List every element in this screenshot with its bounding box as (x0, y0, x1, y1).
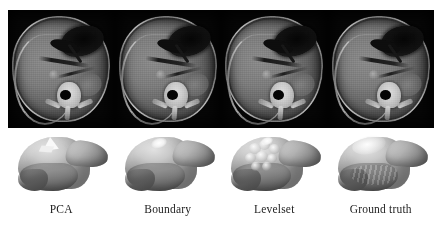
caption-boundary: Boundary (115, 201, 222, 223)
ct-aorta (156, 70, 166, 80)
caption-levelset: Levelset (221, 201, 328, 223)
liver-mesh-levelset (221, 131, 328, 199)
ct-spinous-process (384, 106, 390, 120)
ct-abdomen-cross-section (332, 16, 430, 122)
liver-model (231, 135, 319, 193)
liver-mesh-pca (8, 131, 115, 199)
ct-abdomen-cross-section (225, 16, 323, 122)
liver-model (125, 135, 213, 193)
liver-mesh-ground-truth (328, 131, 435, 199)
ct-aorta (369, 70, 379, 80)
ct-aorta (262, 70, 272, 80)
caption-ground-truth: Ground truth (328, 201, 435, 223)
liver-segmentation-comparison-figure: PCA Boundary Levelset Ground truth (0, 0, 441, 230)
ct-panel-ground-truth (328, 10, 435, 128)
ct-panel-pca (8, 10, 115, 128)
ct-slice-strip (8, 10, 434, 128)
ct-spinal-canal (167, 90, 178, 100)
ct-spinous-process (171, 106, 177, 120)
liver-shadow-region (125, 169, 155, 191)
ct-panel-boundary (115, 10, 222, 128)
caption-pca: PCA (8, 201, 115, 223)
liver-model (338, 135, 426, 193)
panel-caption-row: PCA Boundary Levelset Ground truth (8, 201, 434, 223)
liver-mesh-row (8, 131, 434, 199)
ct-spinal-canal (273, 90, 284, 100)
liver-mesh-boundary (115, 131, 222, 199)
ct-spinous-process (65, 106, 71, 120)
ct-aorta (49, 70, 59, 80)
liver-surface-bump (251, 162, 261, 171)
ct-abdomen-cross-section (12, 16, 110, 122)
liver-model (18, 135, 106, 193)
ct-spinal-canal (60, 90, 71, 100)
ct-spinous-process (278, 106, 284, 120)
liver-surface-bump (269, 144, 280, 154)
liver-surface-bump (262, 162, 272, 171)
ct-abdomen-cross-section (119, 16, 217, 122)
liver-shadow-region (18, 169, 48, 191)
liver-shadow-region (231, 169, 261, 191)
ct-spinal-canal (380, 90, 391, 100)
ct-panel-levelset (221, 10, 328, 128)
